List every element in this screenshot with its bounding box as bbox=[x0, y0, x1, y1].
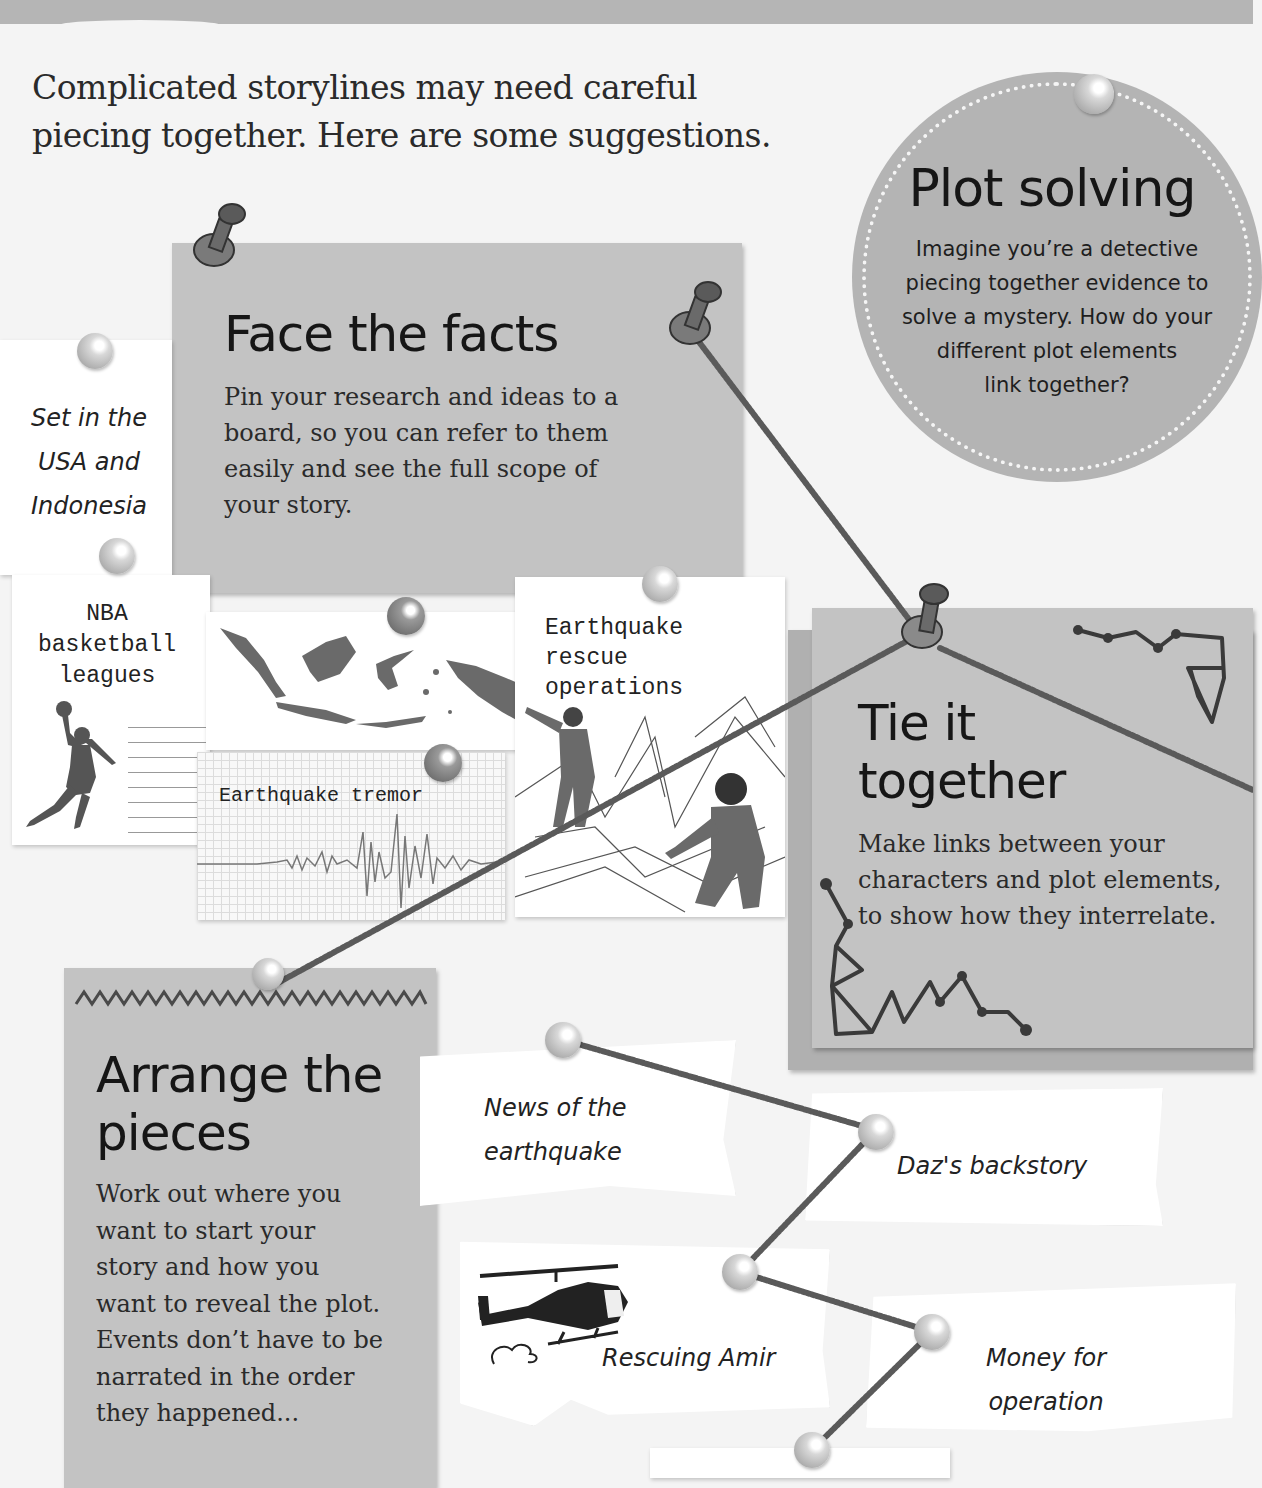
pin-icon bbox=[642, 566, 678, 602]
note-line: leagues bbox=[12, 661, 202, 692]
indonesia-map-note bbox=[206, 612, 526, 750]
pin-icon bbox=[77, 333, 113, 369]
face-the-facts-title: Face the facts bbox=[224, 305, 558, 363]
rescue-illustration-icon bbox=[515, 677, 785, 917]
tremor-label: Earthquake tremor bbox=[219, 784, 423, 807]
body-line: easily and see the full scope of bbox=[224, 451, 618, 487]
pin-icon bbox=[914, 1314, 950, 1350]
tie-it-together-card: Tie it together Make links between your … bbox=[812, 608, 1253, 1048]
note-line: operation bbox=[956, 1380, 1136, 1424]
news-note-text: News of the earthquake bbox=[484, 1086, 627, 1174]
body-line: solve a mystery. How do your bbox=[892, 300, 1222, 334]
pushpin-icon bbox=[900, 580, 960, 660]
nba-note: NBA basketball leagues bbox=[12, 575, 210, 845]
note-line: USA and bbox=[14, 440, 164, 484]
body-line: they happened... bbox=[96, 1395, 383, 1432]
face-the-facts-card: Face the facts Pin your research and ide… bbox=[172, 243, 742, 593]
money-note: Money for operation bbox=[866, 1280, 1236, 1448]
body-line: Imagine you’re a detective bbox=[892, 232, 1222, 266]
pushpin-icon bbox=[666, 276, 726, 356]
header-band bbox=[0, 0, 1253, 24]
title-line: Arrange the bbox=[96, 1046, 382, 1104]
body-line: Events don’t have to be bbox=[96, 1322, 383, 1359]
rescuing-note-text: Rescuing Amir bbox=[602, 1344, 775, 1372]
body-line: story and how you bbox=[96, 1249, 383, 1286]
pin-icon bbox=[794, 1432, 830, 1468]
backstory-note-text: Daz's backstory bbox=[897, 1152, 1087, 1180]
pin-icon bbox=[722, 1254, 758, 1290]
note-line: rescue bbox=[545, 643, 683, 673]
body-line: board, so you can refer to them bbox=[224, 415, 618, 451]
note-line: News of the bbox=[484, 1086, 627, 1130]
pushpin-icon bbox=[190, 198, 250, 278]
body-line: piecing together evidence to bbox=[892, 266, 1222, 300]
indonesia-map-icon bbox=[206, 612, 526, 750]
body-line: your story. bbox=[224, 487, 618, 523]
arrange-the-pieces-body: Work out where you want to start your st… bbox=[96, 1176, 383, 1432]
note-line: NBA bbox=[12, 599, 202, 630]
note-line: Set in the bbox=[14, 396, 164, 440]
body-line: want to start your bbox=[96, 1213, 383, 1250]
plot-solving-body: Imagine you’re a detective piecing toget… bbox=[892, 232, 1222, 402]
rescue-note: Earthquake rescue operations bbox=[515, 577, 785, 917]
intro-line-2: piecing together. Here are some suggesti… bbox=[32, 112, 832, 160]
intro-text: Complicated storylines may need careful … bbox=[32, 64, 832, 160]
pin-icon bbox=[424, 744, 462, 782]
rescuing-note: Rescuing Amir bbox=[460, 1238, 830, 1426]
header-curve bbox=[60, 20, 220, 30]
body-line: narrated in the order bbox=[96, 1359, 383, 1396]
body-line: want to reveal the plot. bbox=[96, 1286, 383, 1323]
backstory-note: Daz's backstory bbox=[805, 1088, 1163, 1226]
pin-icon bbox=[387, 597, 425, 635]
pin-icon bbox=[545, 1022, 581, 1058]
note-line: Indonesia bbox=[14, 484, 164, 528]
plot-solving-title: Plot solving bbox=[852, 158, 1252, 218]
pin-icon bbox=[1074, 74, 1114, 114]
intro-line-1: Complicated storylines may need careful bbox=[32, 64, 832, 112]
setting-note-text: Set in the USA and Indonesia bbox=[14, 396, 164, 528]
basketball-player-icon bbox=[16, 697, 136, 837]
zigzag-doodle-icon bbox=[64, 980, 436, 1010]
body-line: link together? bbox=[892, 368, 1222, 402]
note-line: Money for bbox=[956, 1336, 1136, 1380]
pin-icon bbox=[99, 538, 135, 574]
face-the-facts-body: Pin your research and ideas to a board, … bbox=[224, 379, 618, 523]
news-note: News of the earthquake bbox=[420, 1040, 736, 1206]
body-line: different plot elements bbox=[892, 334, 1222, 368]
arrange-the-pieces-title: Arrange the pieces bbox=[96, 1046, 382, 1162]
nba-note-text: NBA basketball leagues bbox=[12, 599, 202, 692]
note-line: Earthquake bbox=[545, 613, 683, 643]
money-note-text: Money for operation bbox=[956, 1336, 1136, 1424]
note-line: basketball bbox=[12, 630, 202, 661]
note-line: earthquake bbox=[484, 1130, 627, 1174]
tremor-note: Earthquake tremor bbox=[197, 752, 505, 920]
title-line: pieces bbox=[96, 1104, 382, 1162]
pin-icon bbox=[858, 1114, 894, 1150]
pin-icon bbox=[252, 958, 284, 990]
plot-solving-circle: Plot solving Imagine you’re a detective … bbox=[852, 72, 1262, 482]
arrange-the-pieces-card: Arrange the pieces Work out where you wa… bbox=[64, 968, 436, 1488]
setting-note: Set in the USA and Indonesia bbox=[0, 340, 172, 575]
body-line: Pin your research and ideas to a bbox=[224, 379, 618, 415]
constellation-doodle-icon bbox=[812, 608, 1253, 1048]
seismograph-icon bbox=[197, 812, 497, 912]
body-line: Work out where you bbox=[96, 1176, 383, 1213]
